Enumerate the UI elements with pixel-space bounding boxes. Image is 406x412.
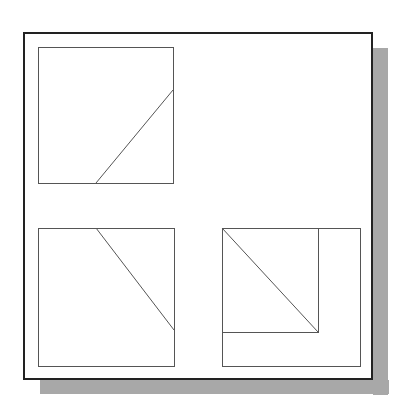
shadow-bottom [40, 380, 389, 394]
frame-border [24, 33, 372, 379]
diagram-canvas [0, 0, 406, 412]
outer-frame [24, 33, 372, 379]
shadow-right [373, 48, 388, 395]
